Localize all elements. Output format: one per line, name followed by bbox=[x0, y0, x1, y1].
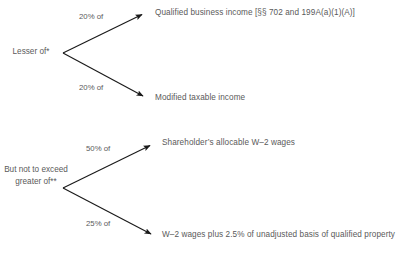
diagram-canvas: Lesser of* 20% of Qualified business inc… bbox=[0, 0, 405, 264]
edge-label-20-percent-qualified-business-income: 20% of bbox=[79, 12, 103, 22]
source-node-but-not-to-exceed-greater-of: But not to exceed greater of** bbox=[0, 164, 72, 187]
edge-label-20-percent-modified-taxable-income: 20% of bbox=[79, 83, 103, 93]
target-node-shareholder-allocable-w2-wages: Shareholder’s allocable W–2 wages bbox=[162, 137, 295, 149]
target-node-w2-wages-plus-unadjusted-basis: W–2 wages plus 2.5% of unadjusted basis … bbox=[162, 229, 402, 241]
target-node-qualified-business-income: Qualified business income [§§ 702 and 19… bbox=[155, 7, 355, 19]
source-node-lesser-of: Lesser of* bbox=[2, 46, 60, 58]
target-node-modified-taxable-income: Modified taxable income bbox=[155, 92, 245, 104]
edge-label-50-percent-shareholder-wages: 50% of bbox=[86, 144, 110, 154]
arrow-layer bbox=[0, 0, 405, 264]
edge-label-25-percent-w2-wages-plus-basis: 25% of bbox=[86, 219, 110, 229]
